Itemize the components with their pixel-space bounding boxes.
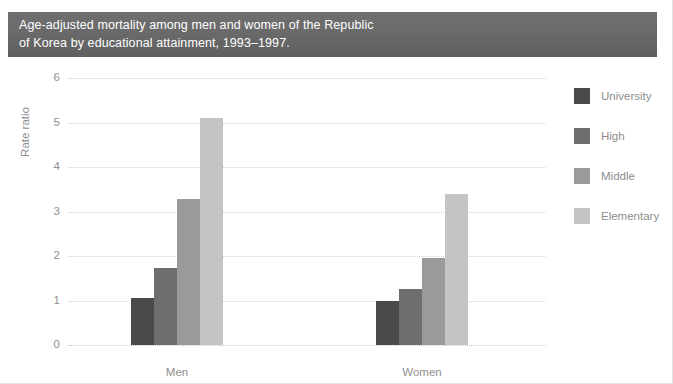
legend-swatch-middle (574, 168, 590, 184)
y-axis-title: Rate ratio (14, 72, 36, 192)
category-label-men: Men (117, 366, 237, 378)
chart-legend: UniversityHighMiddleElementary (574, 76, 659, 236)
y-axis-tick-label: 4 (24, 160, 60, 172)
legend-label-university: University (601, 90, 651, 102)
chart-title-line-2: of Korea by educational attainment, 1993… (19, 35, 657, 53)
y-axis-tick-label: 5 (24, 116, 60, 128)
bar-group-men (131, 78, 223, 345)
legend-swatch-elementary (574, 208, 590, 224)
legend-label-high: High (601, 130, 625, 142)
bar-women-university (376, 301, 399, 346)
legend-item-middle[interactable]: Middle (574, 156, 659, 196)
bar-group-women (376, 78, 468, 345)
bar-men-university (131, 298, 154, 345)
bar-men-elementary (200, 118, 223, 345)
legend-label-middle: Middle (601, 170, 635, 182)
bar-women-middle (422, 258, 445, 345)
y-axis-tick-label: 1 (24, 294, 60, 306)
chart-title-line-1: Age-adjusted mortality among men and wom… (19, 17, 657, 35)
y-axis-tick-label: 0 (24, 338, 60, 350)
legend-swatch-high (574, 128, 590, 144)
legend-item-university[interactable]: University (574, 76, 659, 116)
legend-item-elementary[interactable]: Elementary (574, 196, 659, 236)
plot-area: 0123456 MenWomen (68, 78, 546, 345)
y-axis-tick-label: 6 (24, 71, 60, 83)
bar-men-high (154, 268, 177, 345)
bar-women-high (399, 289, 422, 345)
legend-item-high[interactable]: High (574, 116, 659, 156)
chart-figure: Age-adjusted mortality among men and wom… (0, 0, 673, 384)
category-label-women: Women (362, 366, 482, 378)
legend-label-elementary: Elementary (601, 210, 659, 222)
legend-swatch-university (574, 88, 590, 104)
y-axis-tick-label: 3 (24, 205, 60, 217)
chart-title-banner: Age-adjusted mortality among men and wom… (8, 12, 657, 57)
bar-women-elementary (445, 194, 468, 345)
gridline: 0 (68, 345, 546, 346)
y-axis-tick-label: 2 (24, 249, 60, 261)
bar-men-middle (177, 199, 200, 345)
